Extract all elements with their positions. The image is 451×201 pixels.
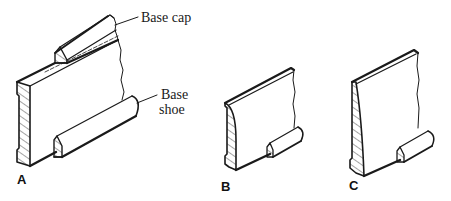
panel-b-drawing <box>225 68 303 170</box>
base-shoe-molding <box>54 96 138 157</box>
panel-label-b: B <box>221 179 230 194</box>
base-cap-callout: Base cap <box>141 10 191 25</box>
panel-a-drawing <box>17 15 157 166</box>
panel-label-a: A <box>17 172 26 187</box>
molding-illustrations <box>0 0 451 201</box>
base-shoe-leader-line <box>137 95 157 103</box>
base-cap-leader-line <box>115 17 138 25</box>
panel-c-drawing <box>350 50 434 176</box>
baseboard-a <box>17 36 124 166</box>
base-shoe-callout-line2: shoe <box>159 102 185 117</box>
panel-label-c: C <box>349 178 358 193</box>
baseboard-molding-diagram: Base cap Base shoe A B C <box>0 0 451 201</box>
base-shoe-callout-line1: Base <box>161 87 188 102</box>
